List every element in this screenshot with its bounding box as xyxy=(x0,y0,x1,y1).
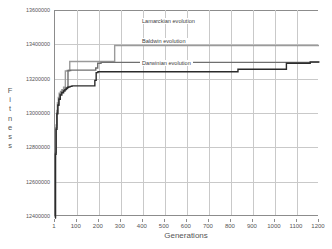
series-line xyxy=(55,62,319,219)
x-axis-tick-mark xyxy=(142,219,143,222)
y-axis-tick-label: 13200000 xyxy=(0,76,50,82)
y-axis-tick-label: 13400000 xyxy=(0,41,50,47)
x-axis-tick-mark xyxy=(164,219,165,222)
y-axis-tick-label: 12600000 xyxy=(0,179,50,185)
series-label-darwinian: Darwinian evolution xyxy=(140,60,193,66)
series-label-lamarckian: Lamarckian evolution xyxy=(140,18,197,24)
x-axis-tick-mark xyxy=(318,219,319,222)
x-axis-tick-label: 1200 xyxy=(305,223,331,229)
y-axis-tick-labels: 1240000012600000128000001300000013200000… xyxy=(0,0,54,249)
x-axis-tick-mark xyxy=(230,219,231,222)
x-axis-tick-mark xyxy=(252,219,253,222)
y-axis-tick-label: 12800000 xyxy=(0,144,50,150)
x-axis-tick-mark xyxy=(54,219,55,222)
x-axis-title: Generations xyxy=(54,231,318,240)
y-axis-tick-label: 13000000 xyxy=(0,110,50,116)
fitness-vs-generations-chart: Fitness 12400000126000001280000013000000… xyxy=(0,0,332,249)
x-axis-tick-mark xyxy=(186,219,187,222)
x-axis-tick-mark xyxy=(120,219,121,222)
x-axis-tick-mark xyxy=(76,219,77,222)
series-label-baldwin: Baldwin evolution xyxy=(140,38,188,44)
y-axis-tick-label: 12400000 xyxy=(0,213,50,219)
x-axis-tick-labels: 1100200300400500600700800900100011001200 xyxy=(54,219,318,231)
x-axis-tick-mark xyxy=(208,219,209,222)
x-axis-tick-mark xyxy=(296,219,297,222)
x-axis-tick-mark xyxy=(98,219,99,222)
x-axis-tick-mark xyxy=(274,219,275,222)
y-axis-tick-label: 13600000 xyxy=(0,7,50,13)
